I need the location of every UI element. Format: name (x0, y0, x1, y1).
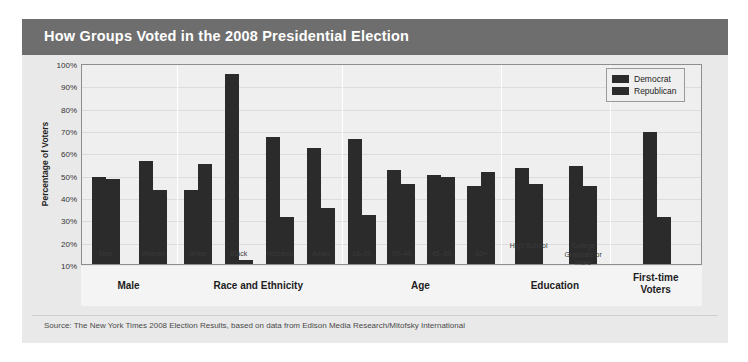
legend-label: Republican (634, 86, 677, 96)
democrat-swatch (612, 75, 629, 83)
bar-republican (239, 260, 253, 264)
bar-democrat (307, 148, 321, 264)
bar-democrat (266, 137, 280, 264)
group-label: First-timeVoters (633, 272, 679, 296)
bar-republican (529, 184, 543, 264)
republican-swatch (612, 87, 629, 95)
group-label-strip: MaleRace and EthnicityAgeEducationFirst-… (81, 266, 702, 306)
chart-legend: DemocratRepublican (606, 68, 685, 102)
bar-democrat (139, 161, 153, 264)
group-label: Education (531, 280, 579, 292)
y-axis-tick: 70% (61, 128, 77, 137)
y-axis-tick: 20% (61, 239, 77, 248)
bar-democrat (348, 139, 362, 264)
bar-democrat (643, 132, 657, 264)
group-label: Male (117, 280, 139, 292)
source-note: Source: The New York Times 2008 Election… (44, 321, 465, 330)
y-axis-tick: 100% (57, 61, 77, 70)
chart-figure: How Groups Voted in the 2008 Presidentia… (0, 0, 748, 362)
y-axis-tick: 80% (61, 105, 77, 114)
y-axis-tick: 10% (61, 262, 77, 271)
y-axis-tick: 60% (61, 150, 77, 159)
legend-item: Democrat (612, 73, 677, 85)
footer-divider (32, 315, 718, 316)
legend-label: Democrat (634, 74, 671, 84)
y-axis-tick: 90% (61, 83, 77, 92)
panel-separator (342, 65, 343, 264)
gridline (82, 154, 701, 155)
bar-republican (657, 217, 671, 264)
bar-democrat (225, 74, 239, 264)
chart-card: How Groups Voted in the 2008 Presidentia… (22, 19, 728, 343)
x-axis-tick: College Graduate or more (557, 242, 609, 268)
y-axis-tick: 30% (61, 217, 77, 226)
panel-separator (177, 65, 178, 264)
title-bar: How Groups Voted in the 2008 Presidentia… (22, 19, 728, 55)
x-axis-tick: 60+ (449, 250, 513, 259)
group-label: Age (411, 280, 430, 292)
y-axis-tick: 40% (61, 195, 77, 204)
y-axis-title: Percentage of Voters (40, 99, 50, 229)
gridline (82, 110, 701, 111)
group-label: Race and Ethnicity (214, 280, 303, 292)
page-title: How Groups Voted in the 2008 Presidentia… (44, 28, 409, 44)
gridline (82, 132, 701, 133)
x-axis-tick: High School (502, 242, 554, 251)
legend-item: Republican (612, 85, 677, 97)
chart-area: Percentage of Voters 10%20%30%40%50%60%7… (22, 55, 728, 313)
bar-republican (198, 164, 212, 265)
y-axis-tick: 50% (61, 172, 77, 181)
panel-separator (501, 65, 502, 264)
